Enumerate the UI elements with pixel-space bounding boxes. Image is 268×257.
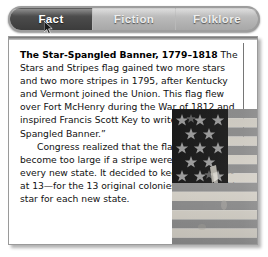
tab-folklore[interactable]: Folklore <box>176 8 258 30</box>
tab-fact[interactable]: Fact <box>10 8 93 30</box>
tab-fiction-label: Fiction <box>114 13 155 25</box>
tab-fiction[interactable]: Fiction <box>93 8 176 30</box>
tabbed-fact-panel-screenshot: Fact Fiction Folklore The Star-Spangled … <box>0 0 268 257</box>
flag-photo <box>172 109 258 245</box>
tab-bar: Fact Fiction Folklore <box>8 6 260 32</box>
tab-fact-label: Fact <box>38 13 63 25</box>
tab-folklore-label: Folklore <box>193 13 241 25</box>
tab-bar-inner: Fact Fiction Folklore <box>10 8 258 30</box>
article-lead-in: The Star-Spangled Banner, 1779–1818 <box>20 49 218 60</box>
star-spangled-banner-flag-illustration <box>172 109 258 245</box>
content-panel: The Star-Spangled Banner, 1779–1818 The … <box>8 36 258 245</box>
panel-top-edge <box>9 37 257 40</box>
